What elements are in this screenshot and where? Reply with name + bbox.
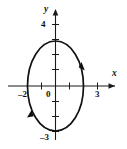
y-tick-label-4: 4 xyxy=(41,20,46,29)
origin-label: 0 xyxy=(46,90,51,99)
y-axis-arrow-icon xyxy=(53,9,59,16)
x-axis-arrow-icon xyxy=(109,83,116,89)
x-tick-label-3: 3 xyxy=(95,90,100,99)
y-tick-label--3: –3 xyxy=(40,133,49,142)
y-axis xyxy=(52,9,59,140)
coordinate-plot xyxy=(0,0,127,149)
x-axis-label: x xyxy=(112,69,117,79)
graph-figure: y x 4 –3 –2 0 3 xyxy=(0,0,127,149)
y-axis-label: y xyxy=(44,5,48,15)
x-tick-label--2: –2 xyxy=(18,90,27,99)
